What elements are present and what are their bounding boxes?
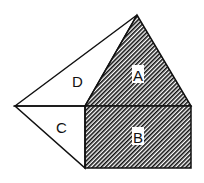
label-c: C <box>56 119 67 136</box>
region-a-triangle <box>85 15 191 106</box>
label-d: D <box>72 73 83 90</box>
geometry-diagram: A B C D <box>0 0 204 183</box>
label-b: B <box>133 129 143 146</box>
label-a: A <box>133 67 143 84</box>
region-c-triangle <box>15 106 85 168</box>
